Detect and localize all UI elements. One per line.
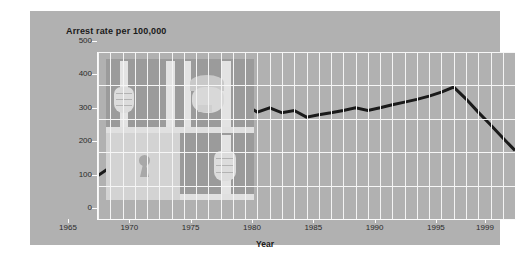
illustration-hand-detail — [216, 172, 234, 173]
vertical-gridline — [123, 52, 124, 219]
illustration-hand-icon — [114, 87, 134, 113]
y-axis-tick — [92, 208, 97, 209]
vertical-gridline — [184, 52, 185, 219]
vertical-gridline — [478, 52, 479, 219]
vertical-gridline — [368, 52, 369, 219]
y-axis-tick — [92, 141, 97, 142]
x-axis-tick-label: 1975 — [182, 223, 200, 232]
illustration-hand-detail — [116, 99, 132, 100]
vertical-gridline — [356, 52, 357, 219]
illustration-horizontal-rail — [106, 127, 254, 133]
vertical-gridline — [135, 52, 136, 219]
y-axis-tick — [92, 175, 97, 176]
horizontal-gridline — [98, 119, 515, 120]
vertical-gridline — [454, 52, 455, 219]
vertical-gridline — [429, 52, 430, 219]
x-axis-tick-label: 1965 — [59, 223, 77, 232]
vertical-gridline — [307, 52, 308, 219]
vertical-gridline — [319, 52, 320, 219]
x-axis-tick-label: 1985 — [304, 223, 322, 232]
vertical-gridline — [245, 52, 246, 219]
vertical-gridline — [233, 52, 234, 219]
vertical-gridline — [380, 52, 381, 219]
vertical-gridline — [503, 52, 504, 219]
y-axis-tick-label: 500 — [68, 37, 92, 45]
vertical-gridline — [331, 52, 332, 219]
x-axis-title: Year — [30, 239, 500, 249]
vertical-gridline — [282, 52, 283, 219]
x-axis-tick-label: 1990 — [366, 223, 384, 232]
vertical-gridline — [441, 52, 442, 219]
vertical-gridline — [110, 52, 111, 219]
vertical-gridline — [98, 52, 99, 219]
jail-cell-illustration — [106, 59, 254, 200]
illustration-hand-detail — [116, 105, 132, 106]
illustration-bar — [184, 61, 191, 131]
horizontal-gridline — [98, 152, 515, 153]
vertical-gridline — [343, 52, 344, 219]
x-axis-line — [97, 219, 516, 220]
vertical-gridline — [159, 52, 160, 219]
vertical-gridline — [417, 52, 418, 219]
vertical-gridline — [221, 52, 222, 219]
y-axis-tick — [92, 74, 97, 75]
x-axis-tick-label: 1980 — [243, 223, 261, 232]
plot-area — [98, 52, 515, 219]
illustration-face-detail — [198, 105, 212, 112]
horizontal-gridline — [98, 52, 515, 53]
y-axis-labels: 0100200300400500 — [64, 11, 92, 245]
y-axis-tick-label: 300 — [68, 104, 92, 112]
vertical-gridline — [196, 52, 197, 219]
vertical-gridline — [294, 52, 295, 219]
vertical-gridline — [466, 52, 467, 219]
vertical-gridline — [491, 52, 492, 219]
x-axis-tick-label: 1970 — [120, 223, 138, 232]
y-axis-tick-label: 200 — [68, 137, 92, 145]
illustration-bottom-rail — [180, 194, 254, 200]
vertical-gridline — [405, 52, 406, 219]
chart-panel: Arrest rate per 100,000 0100200300400500 — [30, 11, 500, 245]
illustration-bar — [166, 61, 175, 131]
y-axis-line — [97, 52, 98, 220]
vertical-gridline — [208, 52, 209, 219]
illustration-hand-detail — [216, 165, 234, 166]
vertical-gridline — [257, 52, 258, 219]
illustration-hand-detail — [216, 158, 234, 159]
illustration-hand-detail — [116, 93, 132, 94]
vertical-gridline — [270, 52, 271, 219]
y-axis-tick-label: 0 — [68, 204, 92, 212]
vertical-gridline — [147, 52, 148, 219]
horizontal-gridline — [98, 85, 515, 86]
y-axis-tick — [92, 41, 97, 42]
horizontal-gridline — [98, 186, 515, 187]
x-axis-tick-label: 1995 — [427, 223, 445, 232]
y-axis-tick-label: 400 — [68, 70, 92, 78]
x-axis-tick-label: 1999 — [476, 223, 494, 232]
vertical-gridline — [172, 52, 173, 219]
y-axis-tick — [92, 108, 97, 109]
vertical-gridline — [392, 52, 393, 219]
y-axis-tick-label: 100 — [68, 171, 92, 179]
